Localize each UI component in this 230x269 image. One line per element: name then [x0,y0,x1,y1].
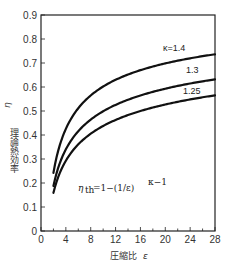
x-tick-label: 20 [160,234,172,245]
x-tick-label: 8 [88,234,94,245]
svg-text:=1−(1/ε): =1−(1/ε) [93,183,134,193]
x-tick-label: 4 [63,234,69,245]
formula: η th =1−(1/ε) κ−1 [78,177,167,195]
y-tick-label: 0.2 [23,178,37,189]
x-tick-label: 24 [185,234,197,245]
y-tick-label: 0.1 [23,202,37,213]
y-tick-label: 0.9 [23,10,37,21]
x-axis-label: 圧縮比 ε [110,250,148,261]
plot-frame [41,15,215,231]
y-tick-label: 0.4 [23,130,37,141]
efficiency-chart: 048121620242800.10.20.30.40.50.60.70.80.… [0,0,230,269]
y-tick-label: 0.7 [23,58,37,69]
svg-text:η: η [2,102,12,108]
x-tick-label: 0 [38,234,44,245]
svg-text:κ−1: κ−1 [148,177,167,187]
x-tick-label: 28 [209,234,221,245]
curve-label-kappa-1-25: 1.25 [183,86,201,96]
svg-text:理論熱効率: 理論熱効率 [9,128,19,174]
y-tick-label: 0.3 [23,154,37,165]
y-tick-label: 0.5 [23,106,37,117]
curve-label-kappa-1-4: κ=1.4 [163,43,185,53]
svg-text:圧縮比: 圧縮比 [110,250,137,261]
curves [53,54,215,193]
svg-text:ε: ε [143,251,148,261]
axis-ticks [41,15,215,231]
y-tick-label: 0 [31,226,37,237]
y-tick-label: 0.8 [23,34,37,45]
tick-labels: 048121620242800.10.20.30.40.50.60.70.80.… [23,10,221,246]
x-tick-label: 16 [135,234,147,245]
x-tick-label: 12 [110,234,122,245]
curve-label-kappa-1-3: 1.3 [186,65,199,75]
svg-text:η: η [78,183,84,193]
y-tick-label: 0.6 [23,82,37,93]
y-axis-label: 理論熱効率 η [2,102,19,174]
